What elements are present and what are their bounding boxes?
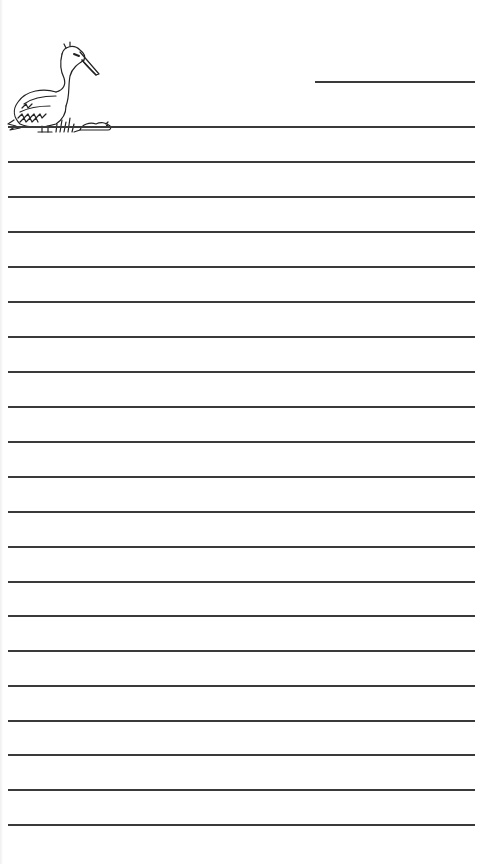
ruled-line: [8, 650, 475, 652]
ruled-line: [8, 231, 475, 233]
ruled-line: [8, 336, 475, 338]
ruled-line: [8, 476, 475, 478]
ruled-line: [8, 126, 475, 128]
ruled-line: [8, 685, 475, 687]
ruled-line: [8, 789, 475, 791]
ruled-line: [8, 824, 475, 826]
title-line: [315, 81, 475, 83]
ruled-line: [8, 371, 475, 373]
ruled-line: [8, 441, 475, 443]
ruled-line: [8, 301, 475, 303]
stationery-page: [0, 0, 499, 864]
page-edge-shadow: [0, 0, 3, 864]
pelican-icon: [4, 38, 124, 134]
ruled-line: [8, 546, 475, 548]
ruled-line: [8, 406, 475, 408]
ruled-line: [8, 720, 475, 722]
ruled-line: [8, 196, 475, 198]
ruled-line: [8, 615, 475, 617]
ruled-line: [8, 754, 475, 756]
ruled-line: [8, 161, 475, 163]
ruled-line: [8, 581, 475, 583]
ruled-line: [8, 511, 475, 513]
ruled-line: [8, 266, 475, 268]
